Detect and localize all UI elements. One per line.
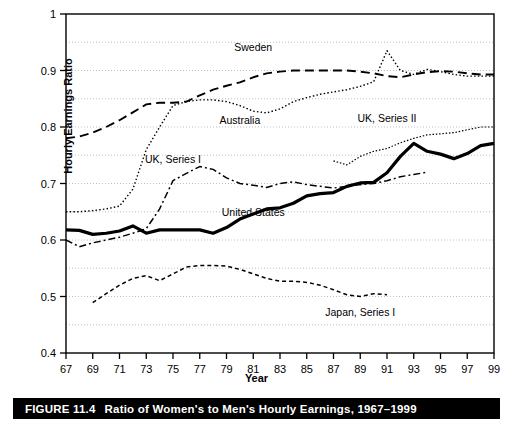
figure-title: Ratio of Women's to Men's Hourly Earning… — [105, 403, 417, 415]
y-tick-label: 1 — [50, 8, 56, 20]
gridlines-group — [66, 42, 494, 325]
series-line — [334, 127, 495, 165]
series-label: Sweden — [234, 41, 272, 53]
y-tick-label: 0.6 — [41, 234, 56, 246]
series-line — [93, 265, 387, 302]
series-label: Japan, Series I — [325, 306, 395, 318]
series-lines-group — [66, 51, 494, 303]
y-tick-label: 0.9 — [41, 65, 56, 77]
figure-container: 0.40.50.60.70.80.91 67697173757779818385… — [0, 0, 513, 426]
y-tick-label: 0.5 — [41, 291, 56, 303]
earnings-ratio-line-chart: 0.40.50.60.70.80.91 67697173757779818385… — [0, 0, 513, 390]
series-line — [66, 71, 494, 139]
series-label: UK, Series II — [358, 112, 417, 124]
y-tick-label: 0.4 — [41, 347, 56, 359]
series-label: United States — [222, 206, 285, 218]
series-line — [66, 51, 494, 212]
figure-caption-bar: FIGURE 11.4Ratio of Women's to Men's Hou… — [13, 398, 500, 419]
figure-caption-text: FIGURE 11.4Ratio of Women's to Men's Hou… — [13, 403, 417, 415]
x-axis-title: Year — [0, 372, 513, 384]
y-tick-label: 0.7 — [41, 178, 56, 190]
figure-number: FIGURE 11.4 — [25, 403, 96, 415]
y-tick-label: 0.8 — [41, 121, 56, 133]
y-axis-title: Hourly Earnings Ratio — [62, 36, 74, 196]
series-label: Australia — [219, 114, 260, 126]
chart-plot-area: 0.40.50.60.70.80.91 67697173757779818385… — [0, 0, 513, 390]
series-line — [66, 143, 494, 234]
series-label: UK, Series I — [145, 153, 201, 165]
